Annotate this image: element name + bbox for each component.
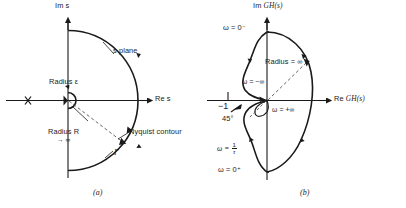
- panel-b-gh-plane: Im GH(s) Re GH(s) ω = 0⁻ Radius = ∞ ω = …: [203, 0, 406, 208]
- im-prefix: Im: [55, 1, 63, 10]
- radius-r-text: Radius R: [48, 127, 79, 136]
- panel-a-s-plane: Im s Re s s plane Radius ε Radius R → ∞ …: [0, 0, 203, 208]
- re-gh-axis-label: Re GH(s): [334, 95, 365, 103]
- omega-one-over-tau-label: ω = 1 τ: [217, 142, 237, 155]
- origin-pole-wedge: [64, 96, 69, 106]
- mapped-contour-upper-scallop: [243, 32, 267, 101]
- omega-tau-prefix: ω =: [217, 144, 229, 153]
- radius-epsilon-label: Radius ε: [49, 78, 78, 86]
- im-var-b: GH(s): [264, 1, 283, 10]
- critical-point-label: −1: [218, 102, 228, 111]
- re-s-axis-label: Re s: [155, 95, 171, 103]
- gamma-label: Γ: [114, 149, 119, 157]
- panel-a-caption: (a): [93, 188, 102, 197]
- re-var-b: GH(s): [346, 94, 365, 103]
- radius-epsilon-leader: [73, 107, 88, 121]
- nyquist-figure: Im s Re s s plane Radius ε Radius R → ∞ …: [0, 0, 406, 208]
- im-var: s: [66, 1, 70, 10]
- panel-a-drawing: [0, 0, 203, 208]
- forty-five-degree-label: 45°: [222, 115, 233, 123]
- s-plane-label: s plane: [113, 47, 138, 55]
- radius-infinity-label: Radius = ∞: [265, 58, 303, 66]
- im-gh-axis-label: Im GH(s): [253, 2, 283, 10]
- im-s-axis-label: Im s: [55, 2, 69, 10]
- radius-infinity-dashed-line: [268, 62, 307, 100]
- tau-denominator: τ: [232, 148, 238, 155]
- omega-zero-minus-label: ω = 0⁻: [223, 24, 246, 32]
- s-plane-word: plane: [117, 46, 138, 55]
- panel-b-caption: (b): [300, 188, 309, 197]
- re-prefix: Re: [155, 94, 165, 103]
- re-var: s: [167, 94, 171, 103]
- re-prefix-b: Re: [334, 94, 344, 103]
- one-over-tau-fraction: 1 τ: [232, 142, 238, 155]
- im-prefix-b: Im: [253, 1, 261, 10]
- omega-minus-infinity-label: ω = −∞: [242, 78, 264, 85]
- radius-r-label: Radius R → ∞: [48, 128, 79, 144]
- omega-plus-infinity-label: ω = +∞: [272, 106, 294, 113]
- nyquist-contour-label: Nyquist contour: [129, 128, 182, 136]
- omega-zero-plus-label: ω = 0⁺: [218, 166, 241, 174]
- radius-r-limit: → ∞: [57, 136, 70, 143]
- mapped-contour-right-lobe: [267, 32, 313, 172]
